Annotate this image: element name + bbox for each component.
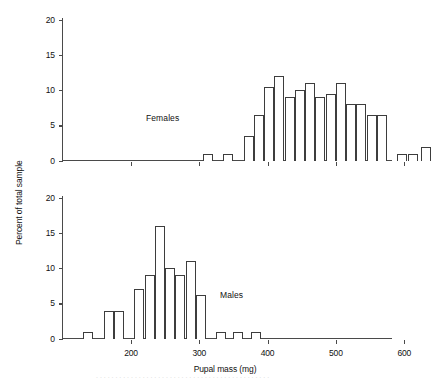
y-tick-label: 0 [33, 334, 55, 344]
histogram-bar [251, 332, 261, 339]
x-tick-mark [268, 340, 269, 344]
x-tick-mark [199, 340, 200, 344]
x-tick-label: 500 [321, 348, 351, 358]
histogram-bar [186, 261, 196, 339]
histogram-bar [155, 226, 165, 339]
y-tick-label: 15 [33, 228, 55, 238]
y-tick-mark [59, 233, 63, 234]
histogram-bar [83, 332, 93, 339]
histogram-bar [165, 268, 175, 339]
histogram-bar [134, 289, 144, 338]
histogram-bar [421, 147, 431, 161]
histogram-bar [114, 311, 124, 339]
histogram-bar [233, 332, 243, 339]
y-tick-label: 10 [33, 263, 55, 273]
x-tick-mark [131, 340, 132, 344]
histogram-bar [196, 295, 206, 339]
y-tick-mark [59, 198, 63, 199]
histogram-bar [104, 311, 114, 339]
histogram-bar [175, 275, 185, 338]
histogram-bar [145, 275, 155, 338]
y-tick-mark [59, 303, 63, 304]
series-label-males: Males [220, 290, 243, 300]
histogram-bar [216, 332, 226, 339]
x-tick-label: 600 [389, 348, 419, 358]
y-tick-mark [59, 268, 63, 269]
y-tick-mark [59, 339, 63, 340]
y-tick-label: 20 [33, 193, 55, 203]
x-tick-label: 200 [116, 348, 146, 358]
x-tick-mark [336, 340, 337, 344]
y-tick-label: 5 [33, 298, 55, 308]
scan-artifact-text: . . . . . . . . . . . . . . . . . . . . … [96, 372, 269, 378]
x-tick-label: 400 [253, 348, 283, 358]
x-tick-label: 300 [184, 348, 214, 358]
x-tick-mark [404, 340, 405, 344]
